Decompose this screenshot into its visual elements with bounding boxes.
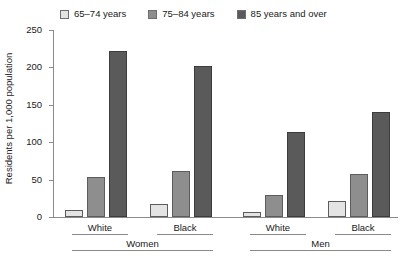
bar-women-white-65-74	[65, 210, 83, 217]
y-tick-50: 50	[49, 180, 54, 181]
y-tick-0: 0	[49, 217, 54, 218]
legend-item-75-84: 75–84 years	[148, 9, 214, 19]
bar-chart: 65–74 years 75–84 years 85 years and ove…	[0, 0, 403, 263]
bar-women-white-85-over	[109, 51, 127, 217]
bar-women-white-75-84	[87, 177, 105, 217]
bar-group-men-black	[328, 30, 394, 217]
bar-group-women-black	[150, 30, 216, 217]
y-axis-title: Residents per 1,000 population	[0, 0, 16, 250]
y-axis-line	[53, 30, 54, 217]
bar-men-white-65-74	[243, 212, 261, 217]
x-sub-label-women-black: Black	[150, 222, 220, 233]
bar-women-black-65-74	[150, 204, 168, 217]
x-sub-rule-women-white	[72, 234, 128, 235]
x-axis-line	[53, 217, 398, 218]
bar-men-black-65-74	[328, 201, 346, 217]
legend-swatch-icon-85-over	[237, 10, 246, 19]
x-group-label-men: Men	[243, 238, 398, 249]
bar-group-men-white	[243, 30, 309, 217]
x-group-rule-women	[72, 250, 213, 251]
chart-legend: 65–74 years 75–84 years 85 years and ove…	[60, 7, 327, 21]
y-tick-150: 150	[49, 105, 54, 106]
bar-men-black-85-over	[372, 112, 390, 217]
x-sub-label-men-white: White	[243, 222, 313, 233]
bar-men-white-85-over	[287, 132, 305, 217]
y-tick-label-200: 200	[26, 61, 42, 72]
legend-label-65-74: 65–74 years	[74, 9, 126, 19]
x-sub-label-men-black: Black	[328, 222, 398, 233]
y-tick-label-100: 100	[26, 136, 42, 147]
y-tick-200: 200	[49, 67, 54, 68]
y-tick-label-0: 0	[37, 211, 42, 222]
bar-women-black-75-84	[172, 171, 190, 217]
y-tick-label-250: 250	[26, 24, 42, 35]
bar-men-white-75-84	[265, 195, 283, 217]
legend-swatch-icon-75-84	[148, 10, 157, 19]
bar-women-black-85-over	[194, 66, 212, 217]
bar-group-women-white	[65, 30, 131, 217]
x-sub-rule-men-white	[250, 234, 306, 235]
x-group-rule-men	[250, 250, 391, 251]
x-sub-rule-men-black	[335, 234, 391, 235]
y-tick-label-50: 50	[31, 174, 42, 185]
legend-item-85-over: 85 years and over	[237, 9, 327, 19]
x-group-label-women: Women	[65, 238, 220, 249]
x-sub-rule-women-black	[157, 234, 213, 235]
legend-item-65-74: 65–74 years	[60, 9, 126, 19]
legend-label-85-over: 85 years and over	[251, 9, 327, 19]
plot-area: 250 200 150 100 50 0	[53, 30, 398, 217]
y-tick-label-150: 150	[26, 99, 42, 110]
y-tick-250: 250	[49, 30, 54, 31]
y-tick-100: 100	[49, 142, 54, 143]
legend-swatch-icon-65-74	[60, 10, 69, 19]
x-sub-label-women-white: White	[65, 222, 135, 233]
legend-label-75-84: 75–84 years	[162, 9, 214, 19]
bar-men-black-75-84	[350, 174, 368, 217]
